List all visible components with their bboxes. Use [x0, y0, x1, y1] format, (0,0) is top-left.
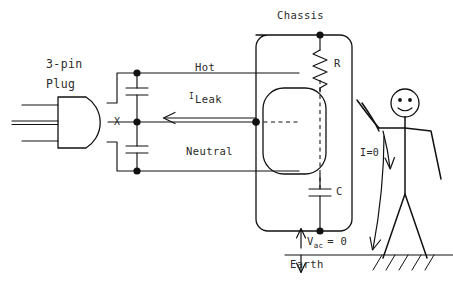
- person-head: [391, 89, 419, 117]
- leak-current-word: Leak: [195, 93, 222, 105]
- earth-hatching: [373, 255, 434, 270]
- internal-device-outline: [263, 88, 326, 174]
- earth-label: Earth: [290, 259, 324, 270]
- vac-equals-zero: = 0: [327, 235, 347, 247]
- leak-current-label: ILeak: [189, 90, 221, 106]
- chassis-voltage-label: Vac= 0: [307, 236, 347, 247]
- neutral-label: Neutral: [186, 146, 233, 157]
- capacitor-c: [309, 174, 331, 231]
- plug-body: [58, 97, 100, 148]
- capacitor-c-label: C: [336, 186, 343, 197]
- body-current-label: I=0: [360, 148, 379, 158]
- person-left-arm-lower: [362, 103, 379, 131]
- person-legs: [383, 194, 427, 258]
- vac-symbol: V: [307, 235, 314, 247]
- vac-subscript: ac: [314, 241, 323, 250]
- resistor-label: R: [334, 58, 341, 69]
- hot-label: Hot: [195, 62, 215, 73]
- plug-label-line1: 3-pin: [46, 59, 83, 71]
- person-figure: [357, 89, 441, 258]
- person-eye-left: [398, 98, 402, 102]
- chassis-label: Chassis: [277, 10, 324, 21]
- person-eye-right: [408, 98, 412, 102]
- plug-label-line2: Plug: [46, 79, 75, 91]
- internal-device: [256, 80, 326, 188]
- plug-pin-middle: [12, 121, 58, 125]
- leak-current-symbol: I: [189, 92, 194, 101]
- electrical-safety-diagram: 3-pin Plug X Hot Neutral ILeak Chassis R…: [0, 0, 453, 290]
- node-x-label: X: [114, 117, 120, 127]
- three-pin-plug: [12, 97, 100, 148]
